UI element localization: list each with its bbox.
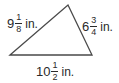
fraction: 1 8 (15, 13, 22, 34)
fraction-denominator: 8 (16, 24, 21, 34)
fraction-numerator: 3 (90, 16, 97, 27)
fraction: 3 4 (90, 16, 97, 37)
unit-label: in. (100, 21, 113, 33)
side-label-right: 6 3 4 in. (82, 16, 113, 37)
whole-number: 9 (7, 17, 14, 30)
whole-number: 10 (36, 65, 50, 78)
side-label-left: 9 1 8 in. (7, 13, 38, 34)
side-label-bottom: 10 1 2 in. (36, 61, 74, 82)
unit-label: in. (61, 66, 74, 78)
fraction: 1 2 (51, 61, 58, 82)
fraction-denominator: 2 (52, 72, 57, 82)
fraction-denominator: 4 (91, 27, 96, 37)
fraction-numerator: 1 (51, 61, 58, 72)
unit-label: in. (25, 18, 38, 30)
whole-number: 6 (82, 20, 89, 33)
fraction-numerator: 1 (15, 13, 22, 24)
